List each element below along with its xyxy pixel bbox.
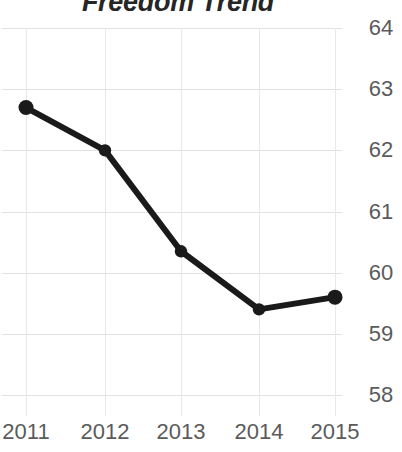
y-axis-tick-label: 64 [360,17,402,39]
data-point-marker [253,303,265,315]
x-axis-tick-label: 2011 [0,420,62,444]
data-point-marker [19,100,34,115]
y-axis-tick-label: 63 [360,78,402,100]
y-axis-tick-label: 62 [360,139,402,161]
series-layer [0,0,356,412]
x-axis-tick-label: 2014 [223,420,295,444]
y-axis-tick-label: 60 [360,262,402,284]
data-point-marker [328,290,343,305]
y-axis-tick-label: 58 [360,384,402,406]
y-axis-tick-label: 59 [360,323,402,345]
plot-area [0,0,356,412]
data-point-marker [175,245,187,257]
data-point-marker [99,144,111,156]
x-axis-tick-label: 2013 [145,420,217,444]
line-chart: Freedom Trend 58596061626364 20112012201… [0,0,402,452]
series-line-freedom-trend [26,108,335,310]
y-axis-tick-label: 61 [360,201,402,223]
x-axis-tick-label: 2015 [299,420,371,444]
x-axis-tick-label: 2012 [69,420,141,444]
